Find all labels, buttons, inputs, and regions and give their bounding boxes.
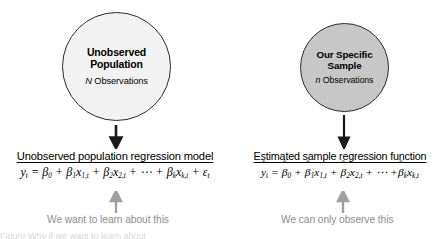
sample-heading: Estimated sample regression function: [243, 150, 437, 162]
population-heading: Unobserved population regression model: [4, 150, 226, 162]
population-equation-block: Unobserved population regression model y…: [4, 150, 226, 180]
sample-equation: yt = β0 + β1x1,t + β2x2,t + ⋯ +βkxk,t: [243, 165, 437, 180]
sample-equation-block: Estimated sample regression function yt …: [243, 150, 437, 180]
population-observations-label: Observations: [92, 76, 148, 86]
cropped-footer-text: Figure Why if we want to learn about: [0, 231, 440, 239]
population-equation: yt = β0 + β1x1,t + β2x2,t + ⋯ + βkxk,t +…: [4, 165, 226, 180]
population-observations-symbol: N: [85, 76, 92, 86]
population-caption: We want to learn about this: [47, 214, 169, 225]
down-arrow-icon-sample: [336, 115, 352, 153]
sample-caption: We can only observe this: [281, 214, 393, 225]
population-circle: Unobserved Population N Observations: [62, 12, 171, 121]
down-arrow-icon-population: [108, 125, 124, 153]
population-circle-title: Unobserved Population: [87, 47, 146, 71]
population-circle-subtitle: N Observations: [85, 76, 148, 86]
figure-canvas: Unobserved Population N Observations Uno…: [0, 0, 440, 239]
sample-circle-subtitle: n Observations: [316, 76, 374, 86]
sample-circle-title: Our Specific Sample: [317, 50, 373, 72]
sample-observations-label: Observations: [320, 75, 373, 85]
sample-circle: Our Specific Sample n Observations: [300, 23, 389, 112]
